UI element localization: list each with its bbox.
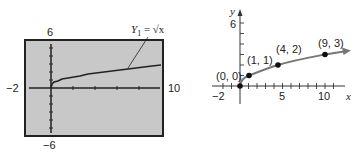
y-axis-ticks — [240, 23, 244, 76]
sqrt-graph-panel: (0, 0) (1, 1) (4, 2) (9, 3) 6 −2 5 10 y … — [180, 0, 354, 157]
point-1-1 — [246, 73, 252, 79]
point-label-9-3: (9, 3) — [318, 37, 344, 49]
y-tick-6: 6 — [230, 18, 236, 30]
calculator-graph: Y1 = √x 6 −6 −2 10 — [0, 0, 180, 157]
xmin-label: −2 — [6, 82, 19, 94]
curve-label: Y1 = √x — [131, 23, 165, 38]
y-axis-label: y — [229, 5, 235, 17]
x-tick-10: 10 — [318, 90, 330, 102]
point-label-0-0: (0, 0) — [216, 70, 242, 82]
calculator-graph-panel: Y1 = √x 6 −6 −2 10 — [0, 0, 180, 157]
ymax-label: 6 — [47, 26, 53, 38]
xmax-label: 10 — [168, 82, 180, 94]
point-9-3 — [322, 52, 328, 58]
sqrt-graph: (0, 0) (1, 1) (4, 2) (9, 3) 6 −2 5 10 y … — [180, 0, 354, 157]
y-axis-arrow-icon — [238, 9, 243, 16]
x-tick-neg2: −2 — [212, 90, 225, 102]
point-0-0 — [237, 83, 243, 89]
x-tick-5: 5 — [279, 90, 285, 102]
point-label-4-2: (4, 2) — [276, 43, 302, 55]
ymin-label: −6 — [43, 139, 56, 151]
x-axis-label: x — [345, 90, 351, 102]
point-label-1-1: (1, 1) — [247, 54, 273, 66]
point-4-2 — [275, 62, 281, 68]
